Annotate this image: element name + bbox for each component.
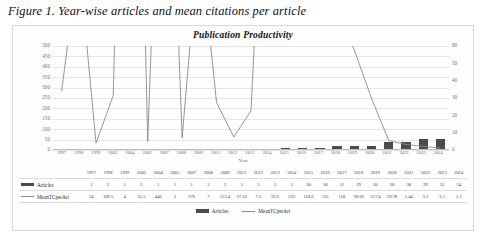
- plot-wrapper: 050100150200250300350400450500 010203040…: [13, 43, 475, 161]
- x-tick-label: 2009: [190, 150, 207, 155]
- table-row-key: Articles: [19, 182, 83, 188]
- bar-cell: [156, 46, 173, 150]
- bar-cell: [260, 46, 277, 150]
- table-cell: 225: [283, 194, 300, 199]
- x-tick-label: 2005: [139, 150, 156, 155]
- table-header-cell: 2023: [434, 170, 451, 175]
- x-tick-label: 1997: [53, 150, 70, 155]
- table-header-cell: 2018: [350, 170, 367, 175]
- table-cell: 1: [183, 182, 200, 187]
- table-cell: 3.2: [417, 194, 434, 199]
- bar-cell: [70, 46, 87, 150]
- table-cell: 10: [300, 182, 317, 187]
- y-tick-label-left: 350: [42, 75, 50, 80]
- y-tick-label-left: 450: [42, 54, 50, 59]
- x-tick-label: 2023: [413, 150, 430, 155]
- table-row-label: MeanTCperArt: [37, 194, 69, 200]
- table-header-cell: 1997: [83, 170, 100, 175]
- line-swatch-icon: [242, 211, 255, 212]
- table-cell: 5: [267, 182, 284, 187]
- y-tick-label-right: 50: [452, 61, 457, 66]
- bar-cell: [363, 46, 380, 150]
- table-cell: 4: [116, 194, 133, 199]
- table-cell: 11: [334, 182, 351, 187]
- legend-item[interactable]: MeanTCperArt: [242, 208, 290, 214]
- bar-cell: [139, 46, 156, 150]
- table-row-label: Articles: [37, 182, 53, 188]
- table-cell: 110.6: [300, 194, 317, 199]
- table-cell: 2: [100, 182, 117, 187]
- table-cell: 34: [83, 194, 100, 199]
- bar-cell: [87, 46, 104, 150]
- table-cell: 10: [317, 182, 334, 187]
- x-tick-label: 2018: [327, 150, 344, 155]
- table-header-cell: 2012: [250, 170, 267, 175]
- bar-cell: [225, 46, 242, 150]
- table-cell: 22.6: [267, 194, 284, 199]
- table-cell: 19: [350, 182, 367, 187]
- bar-cell: [432, 46, 449, 150]
- table-cell: 2: [133, 182, 150, 187]
- x-tick-label: 2013: [241, 150, 258, 155]
- table-header-cell: 2021: [400, 170, 417, 175]
- bar-cell: [397, 46, 414, 150]
- x-tick-label: 2015: [276, 150, 293, 155]
- table-cell: 2: [200, 182, 217, 187]
- y-tick-label-left: 400: [42, 64, 50, 69]
- x-tick-label: 2024: [430, 150, 447, 155]
- data-table: 1997199819992002200420052007200820092011…: [19, 167, 467, 203]
- bar-cell: [294, 46, 311, 150]
- x-tick-label: 2008: [173, 150, 190, 155]
- y-tick-label-left: 500: [42, 43, 50, 48]
- table-cell: 29.78: [384, 194, 401, 199]
- plot-area: 050100150200250300350400450500 010203040…: [53, 46, 449, 150]
- table-row-cells: 121211123555510101119202038395154: [83, 182, 467, 187]
- table-cell: 1.1: [450, 194, 467, 199]
- table-cell: 7: [200, 194, 217, 199]
- table-cell: 135: [317, 194, 334, 199]
- legend-item[interactable]: Articles: [196, 208, 228, 214]
- table-cell: 39: [417, 182, 434, 187]
- line-swatch-icon: [21, 196, 34, 197]
- bar-cell: [191, 46, 208, 150]
- legend-label: MeanTCperArt: [258, 208, 290, 214]
- table-cell: 20: [384, 182, 401, 187]
- y-tick-label-left: 300: [42, 85, 50, 90]
- y-tick-label-right: 0: [452, 147, 455, 152]
- table-cell: 38: [400, 182, 417, 187]
- y-tick-label-right: 30: [452, 95, 457, 100]
- bar-cell: [329, 46, 346, 150]
- table-cell: 57.74: [367, 194, 384, 199]
- chart-panel: Publication Productivity 050100150200250…: [12, 25, 474, 231]
- table-cell: 78.66: [350, 194, 367, 199]
- table-header-cell: 2004: [150, 170, 167, 175]
- bar-swatch-icon: [21, 183, 34, 187]
- table-cell: 7.5: [250, 194, 267, 199]
- x-tick-label: 2019: [344, 150, 361, 155]
- bar-cell: [277, 46, 294, 150]
- table-header-cell: 2002: [133, 170, 150, 175]
- bar-cell: [346, 46, 363, 150]
- table-header-cell: 1998: [100, 170, 117, 175]
- x-tick-label: 1999: [87, 150, 104, 155]
- table-body: Articles12121112355551010111920203839515…: [19, 179, 467, 203]
- x-tick-label: 2007: [156, 150, 173, 155]
- table-row-cells: 34109.5431.544052767123.427.337.522.6225…: [83, 194, 467, 199]
- y-tick-label-left: 0: [47, 147, 50, 152]
- table-cell: 5: [250, 182, 267, 187]
- bar-cell: [311, 46, 328, 150]
- table-cell: 1: [116, 182, 133, 187]
- table-row: MeanTCperArt34109.5431.544052767123.427.…: [19, 191, 467, 203]
- table-row-key: MeanTCperArt: [19, 194, 83, 200]
- table-header-cell: 1999: [116, 170, 133, 175]
- figure-caption: Figure 1. Year-wise articles and mean ci…: [8, 4, 306, 19]
- bar-cell: [415, 46, 432, 150]
- table-header-cell: 2005: [167, 170, 184, 175]
- bar-cell: [242, 46, 259, 150]
- table-cell: 5.44: [400, 194, 417, 199]
- table-cell: 54: [450, 182, 467, 187]
- table-header-cell: 2007: [183, 170, 200, 175]
- y-tick-label-left: 150: [42, 116, 50, 121]
- y-tick-label-left: 50: [45, 137, 50, 142]
- table-header-cell: 2017: [334, 170, 351, 175]
